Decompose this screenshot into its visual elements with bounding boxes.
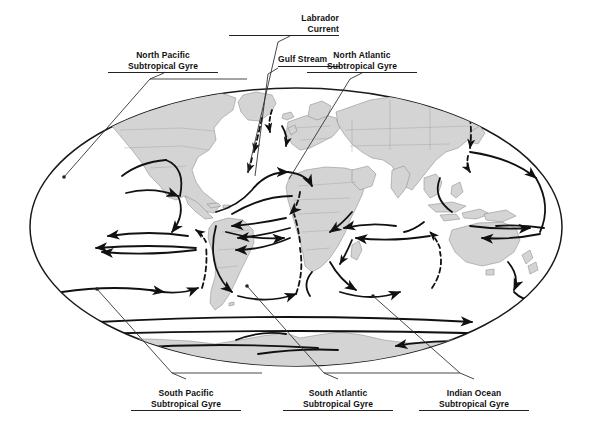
label-line-1: Indian Ocean	[419, 388, 529, 399]
label-line-1: South Pacific	[131, 388, 241, 399]
label-line-2: Subtropical Gyre	[419, 399, 529, 412]
land-falklands	[229, 302, 234, 306]
label-north-atlantic-subtropical-gyre: North Atlantic Subtropical Gyre	[307, 50, 417, 73]
label-line-1: North Atlantic	[307, 50, 417, 61]
label-line-2: Subtropical Gyre	[108, 61, 218, 74]
land-tasmania	[486, 269, 494, 275]
land-antarctica	[30, 332, 562, 372]
label-indian-ocean-subtropical-gyre: Indian Ocean Subtropical Gyre	[419, 388, 529, 411]
dot-indian-ocean	[371, 294, 375, 298]
ocean-currents-figure: North Pacific Subtropical Gyre Labrador …	[0, 0, 593, 429]
label-line-1: Labrador	[229, 13, 339, 24]
label-line-2: Subtropical Gyre	[283, 399, 393, 412]
label-line-2: Current	[229, 24, 339, 37]
label-south-pacific-subtropical-gyre: South Pacific Subtropical Gyre	[131, 388, 241, 411]
label-labrador-current: Labrador Current	[229, 13, 339, 36]
label-north-pacific-subtropical-gyre: North Pacific Subtropical Gyre	[108, 50, 218, 73]
dot-north-pacific	[62, 175, 66, 179]
dot-south-pacific	[95, 287, 99, 291]
label-line-2: Subtropical Gyre	[307, 61, 417, 74]
label-line-1: South Atlantic	[283, 388, 393, 399]
dot-south-atlantic	[245, 284, 249, 288]
land-alaska	[76, 99, 120, 122]
label-line-1: North Pacific	[108, 50, 218, 61]
label-line-2: Subtropical Gyre	[131, 399, 241, 412]
label-south-atlantic-subtropical-gyre: South Atlantic Subtropical Gyre	[283, 388, 393, 411]
